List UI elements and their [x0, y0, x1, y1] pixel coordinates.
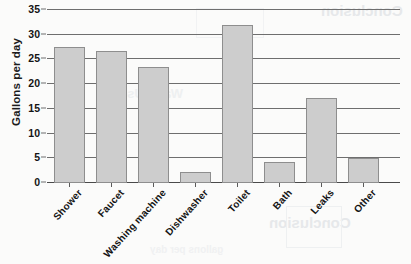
x-axis-category-label: Bath [271, 187, 295, 211]
x-axis-tick-mark [363, 183, 364, 187]
bar-chart: Gallons per day 05101520253035ShowerFauc… [0, 0, 411, 264]
x-axis-tick-mark [153, 183, 154, 187]
x-axis-category-label: Toilet [226, 187, 252, 215]
plot-area: 05101520253035ShowerFaucetWashing machin… [47, 10, 400, 183]
y-axis-tick-mark [41, 9, 46, 10]
x-axis-tick-mark [69, 183, 70, 187]
y-axis-tick-label: 15 [28, 102, 40, 114]
y-axis-tick-label: 20 [28, 77, 40, 89]
y-axis-tick-mark [41, 182, 46, 183]
y-axis-tick-mark [41, 83, 46, 84]
y-axis-tick-label: 5 [34, 151, 40, 163]
x-axis-tick-mark [237, 183, 238, 187]
y-axis-tick-label: 25 [28, 52, 40, 64]
bar [96, 51, 127, 183]
y-axis-title: Gallons per day [10, 12, 22, 152]
x-axis-tick-mark [111, 183, 112, 187]
x-axis-category-label: Faucet [96, 187, 127, 219]
y-axis-tick-label: 10 [28, 127, 40, 139]
y-axis-tick-mark [41, 107, 46, 108]
y-axis-tick-mark [41, 58, 46, 59]
x-axis-category-label: Shower [51, 187, 84, 222]
bar [54, 47, 85, 183]
x-axis-category-label: Leaks [308, 187, 336, 216]
bar [222, 25, 253, 183]
bar [264, 162, 295, 183]
bar [348, 158, 379, 183]
x-axis-tick-mark [279, 183, 280, 187]
y-axis-tick-mark [41, 132, 46, 133]
y-axis-tick-mark [41, 157, 46, 158]
gridline: 35 [47, 9, 400, 10]
x-axis-tick-mark [195, 183, 196, 187]
x-axis-category-label: Dishwasher [163, 187, 210, 238]
bar [180, 172, 211, 183]
y-axis-tick-mark [41, 33, 46, 34]
y-axis-tick-label: 0 [34, 176, 40, 188]
y-axis-tick-label: 30 [28, 28, 40, 40]
bar [306, 98, 337, 183]
x-axis-category-label: Other [351, 187, 378, 215]
x-axis-tick-mark [321, 183, 322, 187]
y-axis-tick-label: 35 [28, 3, 40, 15]
bar [138, 67, 169, 183]
